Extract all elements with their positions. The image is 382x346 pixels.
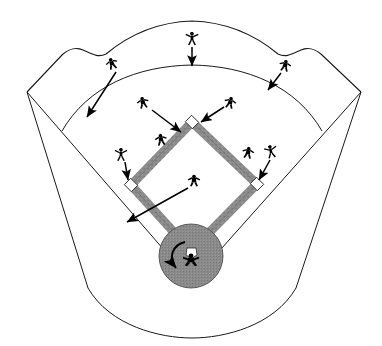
player-second-baseman xyxy=(223,96,237,110)
arrow-shortstop xyxy=(152,110,181,132)
arrow-left-fielder xyxy=(87,72,116,117)
backstop-arc xyxy=(88,288,296,338)
player-first-baseman xyxy=(241,146,255,159)
arrow-second-baseman xyxy=(201,107,224,122)
left-foul-line xyxy=(27,92,171,258)
player-shortstop xyxy=(136,96,150,110)
player-third-baseman xyxy=(115,148,128,161)
right-outer-boundary-line xyxy=(296,92,361,288)
arrow-first-base-cover xyxy=(259,160,270,180)
player-center-fielder xyxy=(185,32,198,45)
player-first-base-cover xyxy=(263,144,278,159)
player-left-fielder xyxy=(104,56,119,71)
home-plate-area xyxy=(159,224,223,288)
outfield-fence-line xyxy=(27,21,361,92)
left-outer-boundary-line xyxy=(27,92,88,288)
arrow-third-baseman xyxy=(125,162,128,180)
field-svg xyxy=(0,0,382,346)
players-group xyxy=(104,32,292,187)
baseball-field-diagram xyxy=(0,0,382,346)
right-foul-line xyxy=(213,92,361,258)
player-pitcher xyxy=(188,175,200,187)
player-right-fielder xyxy=(278,59,292,73)
